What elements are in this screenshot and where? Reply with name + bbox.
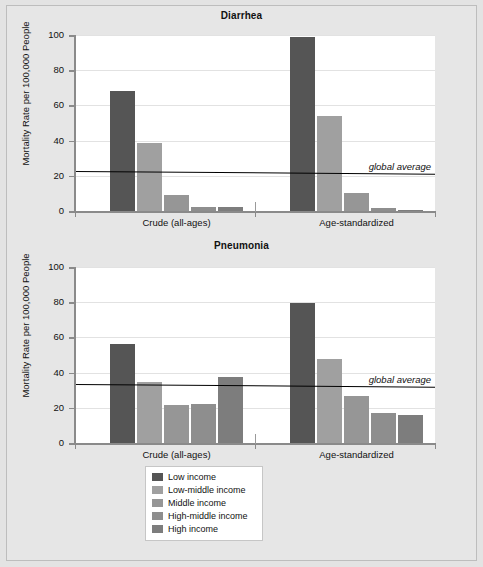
chart-panel-pneumonia: Pneumonia Mortality Rate per 100,000 Peo… <box>0 240 483 465</box>
chart-title-pneumonia: Pneumonia <box>0 240 483 251</box>
figure-canvas: Diarrhea Mortality Rate per 100,000 Peop… <box>0 0 483 567</box>
bar <box>164 195 189 211</box>
x-axis-tick <box>435 444 436 449</box>
bar <box>398 415 423 443</box>
bar <box>218 377 243 443</box>
x-axis-group-label: Age-standardized <box>319 449 393 460</box>
x-axis-group-label: Crude (all-ages) <box>142 449 210 460</box>
bar <box>110 91 135 211</box>
global-average-label: global average <box>369 161 431 172</box>
gridline <box>75 267 435 268</box>
y-axis-tick-label: 40 <box>24 135 64 146</box>
legend-swatch-icon <box>152 525 163 533</box>
x-axis-tick <box>75 212 76 217</box>
x-axis-tick <box>435 212 436 217</box>
legend-item: Low income <box>152 471 256 483</box>
global-average-label: global average <box>369 374 431 385</box>
plot-area-pneumonia: global average <box>75 267 435 443</box>
bar <box>110 344 135 443</box>
y-axis-tick-label: 0 <box>24 437 64 448</box>
y-axis-tick <box>69 302 75 304</box>
bar <box>137 382 162 443</box>
y-axis-tick-label: 100 <box>24 29 64 40</box>
legend-swatch-icon <box>152 486 163 494</box>
y-axis-tick-label: 0 <box>24 205 64 216</box>
y-axis-tick-label: 100 <box>24 261 64 272</box>
y-axis-tick <box>69 176 75 178</box>
y-axis-tick-label: 60 <box>24 331 64 342</box>
legend-item: High income <box>152 523 256 535</box>
y-axis-line-pneumonia <box>74 267 76 444</box>
bar <box>344 396 369 443</box>
legend-item-label: High-middle income <box>168 511 248 521</box>
legend-item: Low-middle income <box>152 484 256 496</box>
y-axis-tick <box>69 443 75 445</box>
x-axis-tick <box>255 212 256 217</box>
legend-swatch-icon <box>152 512 163 520</box>
bar <box>317 359 342 443</box>
y-axis-tick <box>69 337 75 339</box>
y-axis-tick-label: 60 <box>24 99 64 110</box>
bar <box>317 116 342 211</box>
chart-title-diarrhea: Diarrhea <box>0 10 483 21</box>
legend-item-label: Middle income <box>168 498 226 508</box>
chart-panel-diarrhea: Diarrhea Mortality Rate per 100,000 Peop… <box>0 8 483 240</box>
group-separator <box>255 202 256 212</box>
y-axis-tick <box>69 141 75 143</box>
plot-area-diarrhea: global average <box>75 35 435 211</box>
legend-item-label: Low income <box>168 472 216 482</box>
legend-item-label: High income <box>168 524 218 534</box>
x-axis-group-label: Age-standardized <box>319 217 393 228</box>
bar <box>290 303 315 443</box>
legend-item-label: Low-middle income <box>168 485 246 495</box>
gridline <box>75 302 435 303</box>
legend-swatch-icon <box>152 499 163 507</box>
legend: Low incomeLow-middle incomeMiddle income… <box>145 466 263 541</box>
bar <box>191 404 216 443</box>
y-axis-tick-label: 80 <box>24 64 64 75</box>
y-axis-tick-label: 20 <box>24 402 64 413</box>
bar <box>344 193 369 211</box>
y-axis-tick-label: 80 <box>24 296 64 307</box>
x-axis-tick <box>75 444 76 449</box>
y-axis-tick <box>69 408 75 410</box>
bar <box>371 413 396 443</box>
gridline <box>75 35 435 36</box>
bar <box>290 37 315 211</box>
y-axis-line-diarrhea <box>74 35 76 212</box>
gridline <box>75 337 435 338</box>
legend-item: Middle income <box>152 497 256 509</box>
bar <box>137 143 162 211</box>
bar <box>164 405 189 443</box>
group-separator <box>255 434 256 444</box>
y-axis-tick <box>69 70 75 72</box>
y-axis-tick-label: 40 <box>24 367 64 378</box>
gridline <box>75 70 435 71</box>
legend-item: High-middle income <box>152 510 256 522</box>
y-axis-tick <box>69 267 75 269</box>
y-axis-tick-label: 20 <box>24 170 64 181</box>
y-axis-tick <box>69 105 75 107</box>
y-axis-tick <box>69 35 75 37</box>
x-axis-tick <box>255 444 256 449</box>
legend-swatch-icon <box>152 473 163 481</box>
x-axis-group-label: Crude (all-ages) <box>142 217 210 228</box>
y-axis-tick <box>69 373 75 375</box>
y-axis-tick <box>69 211 75 213</box>
